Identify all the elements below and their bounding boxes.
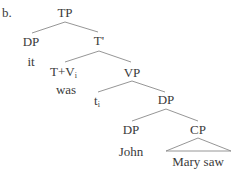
edge-dp-dp <box>132 109 166 121</box>
node-dp-object: DP <box>158 92 175 107</box>
example-label: b. <box>2 5 12 20</box>
node-tv-subscript: i <box>75 71 78 80</box>
edge-tp-tbar <box>65 22 98 32</box>
leaf-it: it <box>27 54 35 69</box>
edge-tp-dp <box>32 22 65 33</box>
syntax-tree-diagram: b. TP DP it T' T+Vi was VP ti DP DP John… <box>0 0 240 172</box>
edge-vp-dp <box>132 81 165 92</box>
leaf-mary-saw: Mary saw <box>172 154 224 169</box>
node-tv-label: T+V <box>50 64 75 79</box>
edge-vp-ti <box>98 81 132 92</box>
node-trace-subscript: i <box>98 100 101 109</box>
node-tbar: T' <box>94 33 104 48</box>
edge-dp-cp <box>166 109 198 121</box>
node-dp-subject: DP <box>23 34 40 49</box>
leaf-was: was <box>56 82 76 97</box>
node-trace: ti <box>94 93 101 109</box>
leaf-john: John <box>119 144 144 159</box>
node-dp-john: DP <box>123 122 140 137</box>
node-cp: CP <box>190 122 206 137</box>
node-vp: VP <box>124 65 141 80</box>
edge-tbar-tv <box>65 51 99 62</box>
node-tv: T+Vi <box>50 64 78 80</box>
edge-tbar-vp <box>99 51 131 62</box>
node-tp: TP <box>57 5 72 20</box>
cp-triangle <box>166 138 231 151</box>
